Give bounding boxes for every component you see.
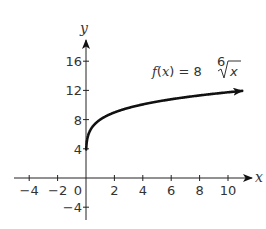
y-tick-label: 12 — [65, 83, 82, 98]
function-plot: −4−22468100−4481216yxf(x) = 86x — [0, 0, 266, 229]
radicand: x — [229, 64, 238, 79]
x-tick-label: 6 — [167, 183, 175, 198]
y-axis-label: y — [79, 20, 89, 36]
function-label: f(x) = 86x — [151, 54, 241, 79]
svg-text:f(x) = 8: f(x) = 8 — [151, 64, 202, 79]
x-tick-label: 10 — [220, 183, 237, 198]
axis-labels: −4−22468100−4481216yxf(x) = 86x — [20, 20, 263, 215]
x-tick-label: 2 — [110, 183, 118, 198]
x-tick-label: −2 — [48, 183, 67, 198]
x-tick-label: 8 — [195, 183, 203, 198]
y-tick-label: 16 — [65, 54, 82, 69]
function-curve — [86, 91, 242, 150]
function-curve-path — [86, 91, 242, 150]
x-axis-label: x — [255, 169, 263, 185]
x-tick-label: 4 — [139, 183, 147, 198]
y-tick-label: 4 — [74, 142, 82, 157]
root-index: 6 — [217, 54, 225, 69]
origin-label: 0 — [74, 183, 82, 198]
y-tick-label: −4 — [63, 200, 82, 215]
chart-container: −4−22468100−4481216yxf(x) = 86x — [0, 0, 266, 229]
y-tick-label: 8 — [74, 113, 82, 128]
x-tick-label: −4 — [20, 183, 39, 198]
